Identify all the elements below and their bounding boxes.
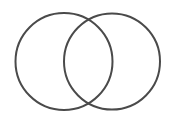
venn-diagram <box>0 0 189 125</box>
